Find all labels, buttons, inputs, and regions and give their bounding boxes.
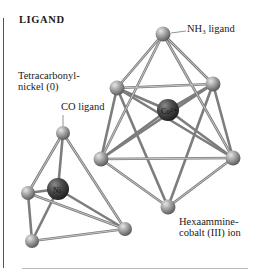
nh3-ligand-atom-right <box>226 151 241 166</box>
nh3-ligand-atom-left <box>94 152 109 167</box>
co-ligand-atom-top <box>56 126 70 140</box>
nh3-ligand-atom-upper-right <box>206 77 221 92</box>
nickel-symbol: Ni <box>53 186 62 195</box>
nickel-bonds <box>28 133 125 241</box>
co-ligand-atom-left <box>21 186 35 200</box>
co-ligand-atom-right <box>118 222 132 236</box>
co-ligand-atom-bottom-left <box>25 234 39 248</box>
nh3-ligand-atom-upper-left <box>110 81 125 96</box>
cobalt-ion-symbol: Co³⁺ <box>161 107 177 116</box>
molecule-diagram: Co³⁺ Ni <box>0 0 256 272</box>
nh3-ligand-atom-top <box>156 27 171 42</box>
nh3-ligand-atom-bottom <box>161 200 176 215</box>
